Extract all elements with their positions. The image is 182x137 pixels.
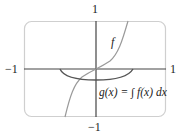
f-curve-label: f xyxy=(111,36,114,48)
x-max-label: 1 xyxy=(170,63,176,75)
y-min-label: −1 xyxy=(88,121,101,133)
x-min-label: −1 xyxy=(5,63,18,75)
graph-canvas xyxy=(0,0,182,137)
graph-figure: 1 −1 −1 1 f g(x) = ∫ f(x) dx xyxy=(0,0,182,137)
g-curve-label: g(x) = ∫ f(x) dx xyxy=(99,87,167,99)
y-max-label: 1 xyxy=(92,3,98,15)
